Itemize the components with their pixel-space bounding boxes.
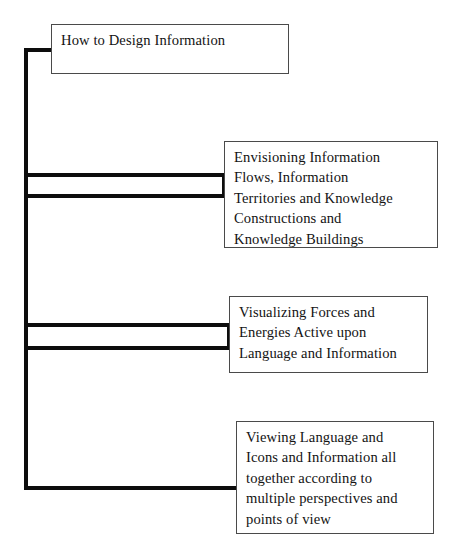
connector-branch-2-upper <box>24 323 231 327</box>
diagram-canvas: How to Design Information Envisioning In… <box>0 0 460 560</box>
connector-branch-3 <box>24 486 238 490</box>
node-branch-2-label: Visualizing Forces and Energies Active u… <box>239 302 427 363</box>
connector-branch-1-lower <box>24 194 226 198</box>
node-root-label: How to Design Information <box>61 30 288 50</box>
connector-root <box>24 48 53 52</box>
node-branch-visualizing-forces-and-energies: Visualizing Forces and Energies Active u… <box>229 296 428 373</box>
node-branch-viewing-language-and-icons: Viewing Language and Icons and Informati… <box>236 421 434 534</box>
node-branch-envisioning-information-flows: Envisioning Information Flows, Informati… <box>224 141 438 248</box>
trunk-vertical-line <box>24 48 28 490</box>
node-branch-1-label: Envisioning Information Flows, Informati… <box>234 147 437 249</box>
node-root: How to Design Information <box>51 24 289 74</box>
node-branch-3-label: Viewing Language and Icons and Informati… <box>246 427 433 529</box>
connector-branch-2-lower <box>24 346 231 350</box>
connector-branch-1-upper <box>24 173 226 177</box>
